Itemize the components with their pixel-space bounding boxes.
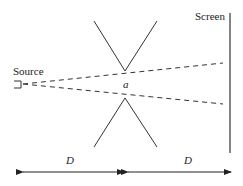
- distance-left-label: D: [66, 154, 74, 166]
- source-label: Source: [13, 65, 44, 77]
- upper-aperture-edge: [94, 21, 157, 71]
- diagram-drawing: [0, 0, 243, 186]
- aperture-diagram: Screen Source a D D: [0, 0, 243, 186]
- distance-right-label: D: [184, 154, 192, 166]
- aperture-width-label: a: [123, 78, 129, 90]
- source-box: [14, 81, 21, 88]
- screen-label: Screen: [195, 10, 225, 22]
- lower-aperture-edge: [94, 98, 157, 147]
